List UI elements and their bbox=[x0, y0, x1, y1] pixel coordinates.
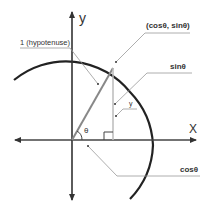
hypotenuse-leader bbox=[20, 48, 98, 84]
y-leader bbox=[116, 109, 137, 116]
right-angle-marker bbox=[104, 132, 113, 140]
hypotenuse-label: 1 (hypotenuse) bbox=[20, 38, 71, 47]
y-axis-label: y bbox=[79, 10, 86, 26]
angle-arc bbox=[77, 131, 82, 140]
point-label: (cosθ, sinθ) bbox=[146, 21, 190, 30]
x-axis-label: X bbox=[189, 122, 197, 136]
theta-label: θ bbox=[84, 126, 89, 135]
cos-label: cosθ bbox=[180, 165, 198, 174]
y-label: y bbox=[129, 100, 133, 108]
sin-label: sinθ bbox=[170, 62, 186, 71]
hypotenuse-line bbox=[72, 68, 113, 140]
point-leader bbox=[116, 33, 190, 62]
unit-circle-diagram: θ y X 1 (hypotenuse) (cosθ, sinθ) sinθ y… bbox=[0, 0, 207, 214]
